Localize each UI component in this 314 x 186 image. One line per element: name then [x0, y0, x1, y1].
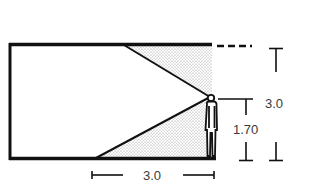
eye-height-label: 1.70 — [233, 123, 258, 136]
room-height-label: 3.0 — [265, 97, 283, 110]
depth-label: 3.0 — [143, 169, 161, 182]
sightline-section-diagram — [0, 0, 314, 186]
